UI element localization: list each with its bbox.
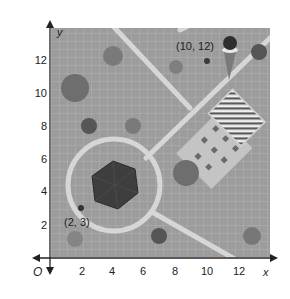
tree (243, 227, 261, 245)
svg-text:12: 12 (35, 54, 47, 66)
tree (61, 74, 89, 102)
point-label-2-3: (2, 3) (64, 216, 90, 228)
x-tick-labels: 2 4 6 8 10 12 (79, 265, 245, 277)
svg-text:6: 6 (41, 153, 47, 165)
y-tick-labels: 2 4 6 8 10 12 (35, 54, 47, 231)
svg-text:8: 8 (172, 265, 178, 277)
svg-text:8: 8 (41, 120, 47, 132)
tree (151, 228, 167, 244)
x-axis-label: x (262, 266, 269, 278)
origin-label: O (33, 265, 42, 279)
svg-text:10: 10 (201, 265, 213, 277)
tree (173, 160, 199, 186)
svg-text:2: 2 (41, 219, 47, 231)
tree (204, 58, 210, 64)
tree (103, 46, 123, 66)
svg-text:2: 2 (79, 265, 85, 277)
svg-text:4: 4 (109, 265, 115, 277)
svg-text:10: 10 (35, 87, 47, 99)
tree (81, 118, 97, 134)
svg-text:6: 6 (140, 265, 146, 277)
svg-text:12: 12 (233, 265, 245, 277)
tree (67, 231, 83, 247)
tree (125, 118, 141, 134)
svg-text:4: 4 (41, 185, 47, 197)
tree (251, 44, 267, 60)
coordinate-map-figure: y x O 2 4 6 8 10 12 2 4 6 8 10 12 (2, 3)… (0, 0, 290, 299)
point-label-10-12: (10, 12) (176, 40, 214, 52)
tree (78, 205, 84, 211)
tree (169, 60, 183, 74)
